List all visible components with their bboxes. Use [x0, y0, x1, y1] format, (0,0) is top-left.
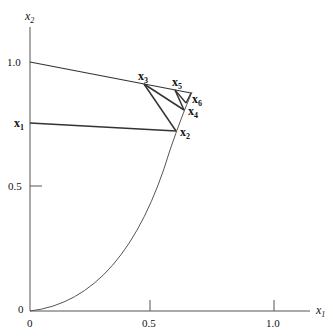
y-tick-label-0: 0: [18, 303, 24, 315]
x-tick-label-0: 0: [27, 317, 33, 329]
point-label-x3: x3: [138, 69, 148, 85]
point-label-x1: x1: [14, 116, 24, 132]
y-axis-label: x2: [24, 9, 34, 25]
point-label-x5: x5: [172, 75, 182, 91]
point-label-x6: x6: [192, 92, 202, 108]
x-axis-label: x1: [315, 303, 325, 319]
x-tick-label-1.0: 1.0: [266, 317, 280, 329]
line-x1-x2: [30, 123, 176, 131]
y-tick-label-0.5: 0.5: [8, 180, 22, 192]
point-label-x2: x2: [180, 125, 190, 141]
diagram-canvas: 1.0 0.5 0 0 0.5 1.0 x2 x1 x1 x2 x3 x4 x5…: [0, 0, 333, 336]
y-tick-label-1.0: 1.0: [7, 56, 21, 68]
line-top: [30, 62, 191, 93]
point-label-x4: x4: [188, 104, 198, 120]
line-x2-x3: [144, 84, 176, 131]
x-tick-label-0.5: 0.5: [142, 317, 156, 329]
